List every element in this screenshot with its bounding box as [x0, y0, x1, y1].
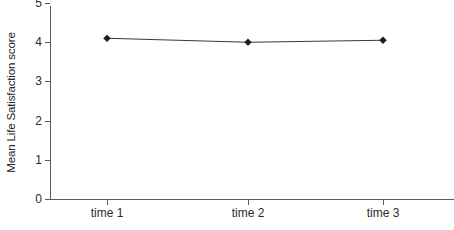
data-point-marker	[245, 39, 252, 46]
plot-area	[0, 0, 454, 230]
line-chart-figure: Mean Life Satisfaction score 012345 time…	[0, 0, 454, 230]
data-point-marker	[104, 35, 111, 42]
data-point-marker	[380, 37, 387, 44]
data-point-markers	[104, 35, 387, 46]
